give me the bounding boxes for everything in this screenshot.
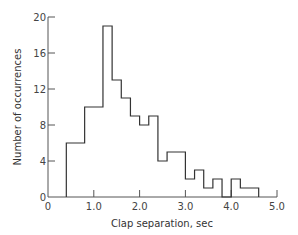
y-tick-label: 8 xyxy=(40,120,46,131)
y-tick-label: 16 xyxy=(33,48,46,59)
x-tick-label: 1.0 xyxy=(86,201,102,212)
y-tick-label: 4 xyxy=(40,156,46,167)
y-tick-label: 0 xyxy=(40,192,46,203)
x-tick-label: 4.0 xyxy=(223,201,239,212)
y-axis-label: Number of occurrences xyxy=(12,49,23,166)
axes: 01.02.03.04.05.0048121620 xyxy=(33,12,285,212)
histogram-outline xyxy=(66,26,258,197)
x-tick-label: 2.0 xyxy=(132,201,148,212)
histogram-chart: 01.02.03.04.05.0048121620 Clap separatio… xyxy=(0,0,298,235)
y-tick-label: 20 xyxy=(33,12,46,23)
x-axis-label: Clap separation, sec xyxy=(111,218,213,229)
y-tick-label: 12 xyxy=(33,84,46,95)
x-tick-label: 3.0 xyxy=(177,201,193,212)
x-tick-label: 5.0 xyxy=(269,201,285,212)
